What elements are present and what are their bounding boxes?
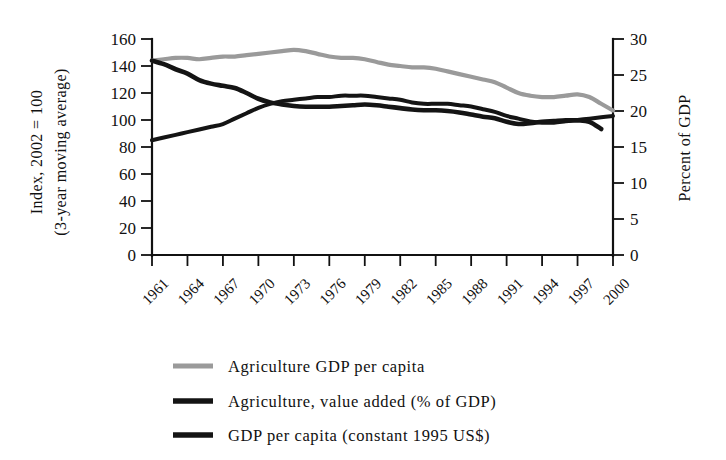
right-axis-title: Percent of GDP [676,95,693,202]
legend-item-1[interactable]: Agriculture, value added (% of GDP) [173,392,496,411]
left-tick-80: 80 [119,138,136,157]
legend-item-2[interactable]: GDP per capita (constant 1995 US$) [173,426,490,445]
series-layer [152,50,613,140]
legend-label-0: Agriculture GDP per capita [228,357,425,376]
x-axis-ticks [152,255,613,266]
right-tick-25: 25 [630,66,647,85]
x-tick-label-1979: 1979 [352,275,385,308]
left-tick-40: 40 [119,192,136,211]
right-tick-5: 5 [630,210,639,229]
x-tick-label-1994: 1994 [529,275,562,308]
x-tick-label-2000: 2000 [600,275,633,308]
chart-figure: Index, 2002 = 100 (3-year moving average… [0,0,726,460]
left-tick-100: 100 [111,111,137,130]
legend-label-2: GDP per capita (constant 1995 US$) [228,426,490,445]
right-tick-10: 10 [630,174,647,193]
series-gdp-per-capita [152,96,613,141]
left-axis-ticks [141,39,152,255]
right-tick-0: 0 [630,246,639,265]
x-tick-label-1988: 1988 [458,275,491,308]
x-tick-label-1982: 1982 [387,275,420,308]
left-tick-60: 60 [119,165,136,184]
left-axis-tick-labels: 160 140 120 100 80 60 40 20 0 [111,30,137,265]
left-axis-title: Index, 2002 = 100 (3-year moving average… [28,68,70,235]
legend-label-1: Agriculture, value added (% of GDP) [228,392,496,411]
right-tick-15: 15 [630,138,647,157]
right-axis: 30 25 20 15 10 5 0 [613,30,647,265]
x-tick-label-1967: 1967 [210,275,243,308]
x-axis: 1961196419671970197319761979198219851988… [139,255,633,308]
x-tick-label-1976: 1976 [316,275,349,308]
series-agriculture-gdp-per-capita [152,50,613,111]
left-axis-title-line1: Index, 2002 = 100 [28,90,45,214]
x-axis-tick-labels: 1961196419671970197319761979198219851988… [139,275,633,308]
left-tick-0: 0 [128,246,137,265]
legend-item-0[interactable]: Agriculture GDP per capita [173,357,425,376]
left-axis-title-line2: (3-year moving average) [52,68,70,235]
left-tick-20: 20 [119,219,136,238]
x-tick-label-1997: 1997 [565,275,598,308]
left-axis: 160 140 120 100 80 60 40 20 0 [111,30,153,265]
left-tick-140: 140 [111,57,137,76]
right-tick-20: 20 [630,102,647,121]
x-tick-label-1973: 1973 [281,275,314,308]
right-axis-tick-labels: 30 25 20 15 10 5 0 [630,30,647,265]
x-tick-label-1970: 1970 [245,275,278,308]
left-tick-120: 120 [111,84,137,103]
right-axis-title-label: Percent of GDP [676,95,693,202]
x-tick-label-1991: 1991 [494,275,527,308]
right-tick-30: 30 [630,30,647,49]
x-tick-label-1985: 1985 [423,275,456,308]
x-tick-label-1964: 1964 [175,275,208,308]
right-axis-ticks [613,39,624,255]
x-tick-label-1961: 1961 [139,275,172,308]
chart-legend: Agriculture GDP per capita Agriculture, … [173,357,496,445]
left-tick-160: 160 [111,30,137,49]
